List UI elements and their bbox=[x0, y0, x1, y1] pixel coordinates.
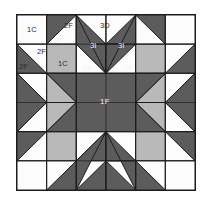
patch-1C-inner-right-bottom bbox=[136, 132, 166, 161]
patch-1C-bottom-left bbox=[17, 161, 47, 190]
quilt-diagram-stage: .w{fill:#fdfdfd;} .lg{fill:#b9b9b9;} .dg… bbox=[0, 0, 212, 203]
patch-1C-inner-right bbox=[136, 44, 166, 73]
quilt-block-frame: .w{fill:#fdfdfd;} .lg{fill:#b9b9b9;} .dg… bbox=[16, 14, 196, 191]
patch-1C-bottom-right bbox=[165, 161, 195, 190]
quilt-block-canvas: .w{fill:#fdfdfd;} .lg{fill:#b9b9b9;} .dg… bbox=[17, 15, 195, 190]
patch-1C-top-left bbox=[17, 15, 47, 44]
patch-1C-inner-left bbox=[47, 44, 77, 73]
patch-1C-top-right bbox=[165, 15, 195, 44]
patch-1C-inner-left-bottom bbox=[47, 132, 77, 161]
quilt-block-svg: .w{fill:#fdfdfd;} .lg{fill:#b9b9b9;} .dg… bbox=[17, 15, 195, 190]
